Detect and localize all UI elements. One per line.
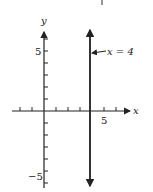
y-tick-label-neg5: −5 [28,171,43,182]
y-axis-label: y [40,15,47,26]
annotation-arrow [92,51,106,53]
y-tick-label-5: 5 [35,46,41,57]
line-label: x = 4 [107,46,134,57]
graph-vertical-line: y x 5 −5 5 x = 4 [0,0,153,192]
x-axis-label: x [133,105,139,116]
x-tick-label-5: 5 [101,115,107,126]
